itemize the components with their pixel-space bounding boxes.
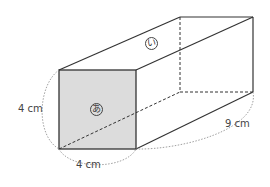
- height-guide-arc: [42, 70, 59, 149]
- height-label: 4 cm: [18, 104, 43, 114]
- top-face-label: い: [145, 37, 158, 50]
- length-label: 9 cm: [225, 119, 250, 129]
- prism-diagram: [0, 0, 270, 187]
- edge-top-left: [59, 17, 180, 70]
- width-label: 4 cm: [76, 160, 101, 170]
- front-face-label: あ: [90, 103, 103, 116]
